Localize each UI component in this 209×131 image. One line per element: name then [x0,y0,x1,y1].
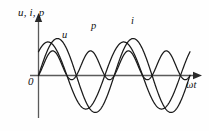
y-axis-label: u, i, p [18,7,44,18]
plot-canvas [0,0,209,131]
origin-label: 0 [28,76,34,87]
curve-label-u: u [62,30,67,41]
waveform-figure: u, i, p ωt 0 u p i [0,0,209,131]
curve-label-p: p [91,21,96,32]
x-axis-label: ωt [186,80,196,91]
curve-label-i: i [131,16,134,27]
